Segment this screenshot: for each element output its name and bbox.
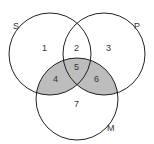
venn-diagram: S P M 1 2 3 4 5 6 7 (0, 0, 154, 144)
region-4: 4 (53, 74, 58, 84)
region-2: 2 (74, 43, 79, 53)
set-label-p: P (134, 21, 140, 31)
region-5: 5 (74, 62, 79, 72)
set-label-m: M (107, 123, 115, 133)
set-label-s: S (13, 21, 19, 31)
region-1: 1 (42, 43, 47, 53)
region-7: 7 (74, 99, 79, 109)
region-6: 6 (94, 74, 99, 84)
region-3: 3 (106, 43, 111, 53)
